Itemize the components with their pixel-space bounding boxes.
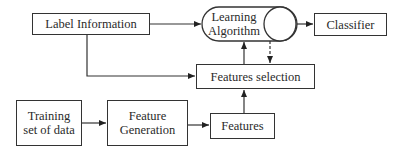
node-label-line1: Feature	[129, 109, 166, 123]
node-feature-generation: Feature Generation	[107, 100, 188, 146]
node-label-line2: Generation	[120, 123, 176, 137]
node-label-information: Label Information	[32, 13, 150, 35]
node-learning-algorithm: Learning Algorithm	[203, 10, 265, 38]
node-label: Label Information	[45, 17, 136, 31]
node-label-line1: Training	[28, 109, 71, 123]
node-training-set: Training set of data	[16, 100, 82, 146]
node-label-line2: set of data	[23, 123, 74, 137]
node-label: Features	[221, 119, 263, 133]
node-classifier: Classifier	[314, 13, 387, 36]
node-label-line1: Learning	[203, 10, 265, 24]
node-label: Features selection	[211, 70, 301, 84]
node-features: Features	[210, 113, 275, 139]
edge-label-to-features-selection	[87, 35, 195, 76]
node-features-selection: Features selection	[196, 64, 315, 89]
diagram-canvas: Label Information Learning Algorithm Cla…	[0, 0, 400, 157]
node-label-line2: Algorithm	[203, 24, 265, 38]
node-label: Classifier	[327, 18, 375, 32]
